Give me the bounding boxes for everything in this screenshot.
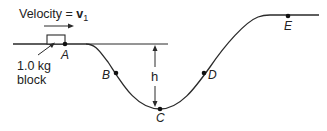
track-curve: [13, 15, 319, 109]
point-a-label: A: [60, 48, 69, 62]
block-label-line1: 1.0 kg: [17, 59, 51, 73]
arrowhead-up-icon: [153, 45, 158, 51]
height-label: h: [151, 69, 158, 84]
block-label-line2: block: [17, 73, 47, 87]
arrowhead-down-icon: [153, 101, 158, 107]
velocity-label: Velocity = v1: [19, 7, 88, 23]
point-d-label: D: [208, 68, 217, 82]
point-d-dot: [202, 71, 207, 76]
point-e-label: E: [284, 19, 293, 33]
point-a-dot: [63, 42, 68, 47]
velocity-symbol: v: [76, 7, 83, 21]
point-b-dot: [114, 71, 119, 76]
track-diagram: h Velocity = v1 1.0 kg block A B C D E: [0, 0, 327, 131]
point-c-label: C: [156, 111, 165, 125]
velocity-arrow: [44, 24, 74, 29]
point-e-dot: [286, 14, 291, 19]
arrowhead-right-icon: [68, 24, 74, 29]
velocity-text: Velocity =: [19, 7, 76, 21]
block: [47, 35, 65, 44]
point-b-label: B: [102, 68, 110, 82]
velocity-subscript: 1: [83, 13, 88, 23]
